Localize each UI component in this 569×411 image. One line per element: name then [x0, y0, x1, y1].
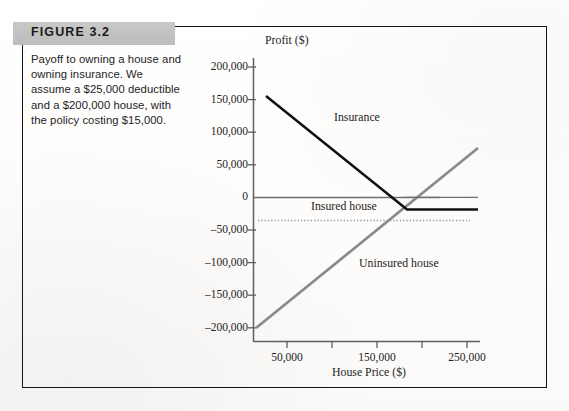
series-label-insurance: Insurance	[334, 110, 380, 125]
x-tick-label: 50,000	[257, 351, 317, 363]
y-tick-label: 0	[190, 190, 248, 202]
y-tick-label: 200,000	[190, 60, 248, 72]
y-tick-label: –150,000	[186, 288, 248, 300]
y-tick-label: –100,000	[186, 256, 248, 268]
figure-label: FIGURE 3.2	[31, 25, 110, 39]
y-tick-label: –50,000	[186, 223, 248, 235]
y-tick-label: 50,000	[190, 158, 248, 170]
x-axis-title: House Price ($)	[332, 365, 406, 380]
figure-caption: Payoff to owning a house and owning insu…	[31, 52, 185, 128]
series-label-uninsured-house: Uninsured house	[359, 256, 439, 271]
y-tick-label: 100,000	[190, 125, 248, 137]
x-tick-label: 250,000	[437, 351, 497, 363]
series-label-insured-house: Insured house	[311, 199, 377, 214]
y-axis-title: Profit ($)	[265, 33, 309, 48]
y-tick-label: 150,000	[190, 93, 248, 105]
x-tick-label: 150,000	[347, 351, 407, 363]
y-tick-label: –200,000	[186, 321, 248, 333]
